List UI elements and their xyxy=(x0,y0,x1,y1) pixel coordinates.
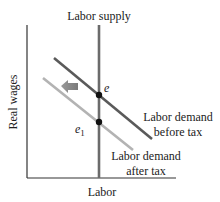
labor-market-diagram: Labor supply e e1 Labor demand before ta… xyxy=(0,0,220,202)
equilibrium-point-e xyxy=(96,92,102,98)
shift-left-arrow-icon xyxy=(61,80,78,93)
demand-after-tax-label-line2: after tax xyxy=(126,164,166,178)
equilibrium-point-e1 xyxy=(96,119,102,125)
point-e1-label: e1 xyxy=(75,122,85,138)
point-e-label: e xyxy=(104,81,110,95)
diagram-canvas: Labor supply e e1 Labor demand before ta… xyxy=(0,0,220,202)
demand-after-tax-label-line1: Labor demand xyxy=(111,149,181,163)
demand-before-tax-label-line1: Labor demand xyxy=(143,110,213,124)
demand-before-tax-label-line2: before tax xyxy=(154,125,202,139)
labor-supply-label: Labor supply xyxy=(67,9,131,23)
x-axis-label: Labor xyxy=(88,185,117,199)
labor-demand-after-tax-curve xyxy=(43,78,133,150)
y-axis-label: Real wages xyxy=(6,74,20,129)
